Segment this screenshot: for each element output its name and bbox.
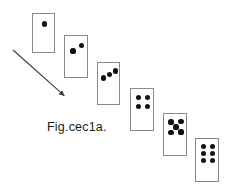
- figure-container: Fig.cec1a.: [0, 0, 230, 193]
- pip: [145, 104, 150, 109]
- pip: [79, 43, 84, 48]
- pip: [210, 151, 215, 156]
- card-2-pips: [64, 35, 88, 78]
- pip: [136, 104, 141, 109]
- pip: [101, 75, 106, 80]
- pip: [210, 158, 215, 163]
- pip: [136, 95, 141, 100]
- pip: [178, 129, 183, 134]
- pip: [201, 158, 206, 163]
- card-4-pips: [130, 88, 154, 131]
- pip: [145, 95, 150, 100]
- card-3-pips: [97, 62, 120, 105]
- pip: [70, 48, 75, 53]
- pip: [42, 21, 47, 26]
- domino-card-sequence: [0, 0, 230, 193]
- pip: [113, 68, 118, 73]
- card-6-pips: [195, 138, 219, 182]
- pip: [168, 130, 173, 135]
- card-5-pips: [163, 113, 187, 156]
- pip: [210, 144, 215, 149]
- pip: [201, 151, 206, 156]
- card-1-pip: [32, 13, 55, 53]
- figure-caption: Fig.cec1a.: [47, 120, 107, 134]
- pip: [107, 72, 112, 77]
- pip: [201, 144, 206, 149]
- pip: [178, 119, 183, 124]
